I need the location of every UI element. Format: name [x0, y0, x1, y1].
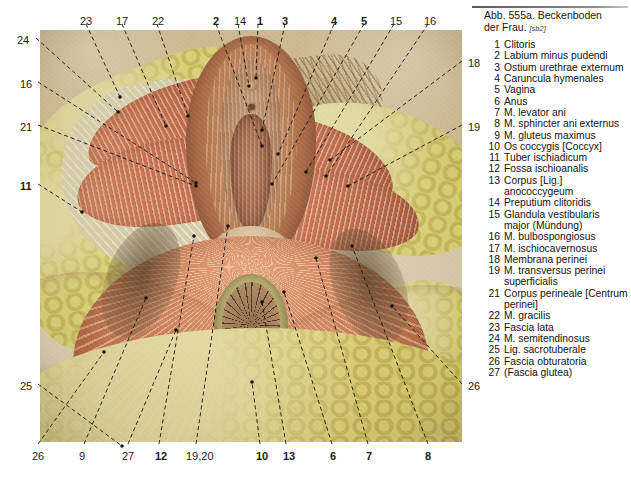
legend-item-number: 17 [484, 243, 500, 254]
legend-item-7: 7M. levator ani [484, 107, 628, 118]
callout-left-16: 16 [20, 79, 32, 90]
ostium-urethrae-externum [248, 104, 255, 110]
callout-top-16: 16 [424, 16, 436, 27]
legend-item-number: 14 [484, 197, 500, 208]
legend-top-rule [472, 6, 628, 8]
clitoris [246, 82, 257, 91]
legend-item-number: 19 [484, 265, 500, 288]
legend-item-10: 10Os coccygis [Coccyx] [484, 141, 628, 152]
legend-item-number: 21 [484, 288, 500, 311]
callout-bottom-7: 7 [366, 451, 372, 462]
legend-item-number: 3 [484, 62, 500, 73]
callout-bottom-27: 27 [122, 451, 134, 462]
callout-top-22: 22 [152, 16, 164, 27]
legend-item-23: 23Fascia lata [484, 322, 628, 333]
illustration-artwork [40, 30, 462, 442]
legend-item-number: 26 [484, 356, 500, 367]
legend-item-number: 25 [484, 344, 500, 355]
legend-item-label: M. semitendinosus [504, 333, 628, 344]
legend-item-label: Preputium clitoridis [504, 197, 628, 208]
legend-item-label: M. levator ani [504, 107, 628, 118]
legend-item-label: Corpus perineale [Centrum perinei] [504, 288, 628, 311]
legend-item-15: 15Glandula vestibularis major (Mündung) [484, 209, 628, 232]
legend-item-number: 8 [484, 118, 500, 129]
legend-item-3: 3Ostium urethrae externum [484, 62, 628, 73]
legend-item-26: 26Fascia obturatoria [484, 356, 628, 367]
callout-bottom-8: 8 [425, 451, 431, 462]
legend-item-label: M. bulbospongiosus [504, 231, 628, 242]
callout-left-21: 21 [20, 122, 32, 133]
legend-item-label: Clitoris [504, 39, 628, 50]
legend-list: 1Clitoris2Labium minus pudendi3Ostium ur… [484, 39, 628, 378]
legend-item-1: 1Clitoris [484, 39, 628, 50]
callout-top-2: 2 [213, 16, 219, 27]
legend-item-2: 2Labium minus pudendi [484, 50, 628, 61]
legend-item-label: Os coccygis [Coccyx] [504, 141, 628, 152]
figure-title: Abb. 555a. Beckenboden der Frau. [sb2] [484, 10, 628, 34]
callout-top-14: 14 [234, 16, 246, 27]
legend-item-number: 9 [484, 130, 500, 141]
legend-item-6: 6Anus [484, 96, 628, 107]
legend-item-12: 12Fossa ischioanalis [484, 163, 628, 174]
legend-item-8: 8M. sphincter ani externus [484, 118, 628, 129]
legend-item-27: 27(Fascia glutea) [484, 367, 628, 378]
legend-item-number: 23 [484, 322, 500, 333]
callout-bottom-10: 10 [256, 451, 268, 462]
anatomy-illustration [40, 30, 462, 442]
callout-top-1: 1 [257, 16, 263, 27]
callout-right-19: 19 [468, 122, 480, 133]
legend-item-number: 11 [484, 152, 500, 163]
legend-item-number: 1 [484, 39, 500, 50]
figure-title-line2: der Frau. [484, 21, 527, 33]
callout-top-15: 15 [390, 16, 402, 27]
legend-item-5: 5Vagina [484, 84, 628, 95]
legend-item-label: Fascia obturatoria [504, 356, 628, 367]
callout-left-24: 24 [17, 35, 29, 46]
callout-right-26: 26 [468, 381, 480, 392]
legend-item-number: 16 [484, 231, 500, 242]
legend-item-label: Corpus [Lig.] anococcygeum [504, 175, 628, 198]
callout-bottom-12: 12 [155, 451, 167, 462]
callout-top-3: 3 [282, 16, 288, 27]
callout-top-23: 23 [80, 16, 92, 27]
legend-item-17: 17M. ischiocavernosus [484, 243, 628, 254]
legend-item-label: Labium minus pudendi [504, 50, 628, 61]
leader-25-tip [120, 444, 124, 448]
legend-item-19: 19M. transversus perinei superficialis [484, 265, 628, 288]
legend-item-label: M. sphincter ani externus [504, 118, 628, 129]
legend-item-label: M. transversus perinei superficialis [504, 265, 628, 288]
legend-item-14: 14Preputium clitoridis [484, 197, 628, 208]
legend-item-9: 9M. gluteus maximus [484, 130, 628, 141]
legend-item-number: 12 [484, 163, 500, 174]
legend-item-number: 15 [484, 209, 500, 232]
callout-left-25: 25 [20, 381, 32, 392]
legend-item-22: 22M. gracilis [484, 310, 628, 321]
legend-item-11: 11Tuber ischiadicum [484, 152, 628, 163]
callout-left-11: 11 [20, 181, 32, 192]
callout-top-4: 4 [331, 16, 337, 27]
legend-item-label: Fascia lata [504, 322, 628, 333]
callout-bottom-6: 6 [330, 451, 336, 462]
figure-title-line1: Abb. 555a. Beckenboden [484, 9, 602, 21]
legend-item-number: 18 [484, 254, 500, 265]
legend-item-number: 7 [484, 107, 500, 118]
legend-item-label: Vagina [504, 84, 628, 95]
figure-source: [sb2] [530, 24, 546, 33]
legend-item-number: 10 [484, 141, 500, 152]
legend-item-label: M. gluteus maximus [504, 130, 628, 141]
legend-item-number: 22 [484, 310, 500, 321]
figure-legend: Abb. 555a. Beckenboden der Frau. [sb2] 1… [484, 10, 628, 378]
legend-item-label: Anus [504, 96, 628, 107]
legend-item-25: 25Lig. sacrotuberale [484, 344, 628, 355]
legend-item-label: (Fascia glutea) [504, 367, 628, 378]
legend-item-number: 2 [484, 50, 500, 61]
legend-item-label: Lig. sacrotuberale [504, 344, 628, 355]
callout-top-5: 5 [361, 16, 367, 27]
legend-item-number: 6 [484, 96, 500, 107]
legend-item-label: M. gracilis [504, 310, 628, 321]
legend-item-label: Glandula vestibularis major (Mündung) [504, 209, 628, 232]
legend-item-4: 4Caruncula hymenales [484, 73, 628, 84]
legend-item-13: 13Corpus [Lig.] anococcygeum [484, 175, 628, 198]
legend-item-number: 24 [484, 333, 500, 344]
legend-item-16: 16M. bulbospongiosus [484, 231, 628, 242]
